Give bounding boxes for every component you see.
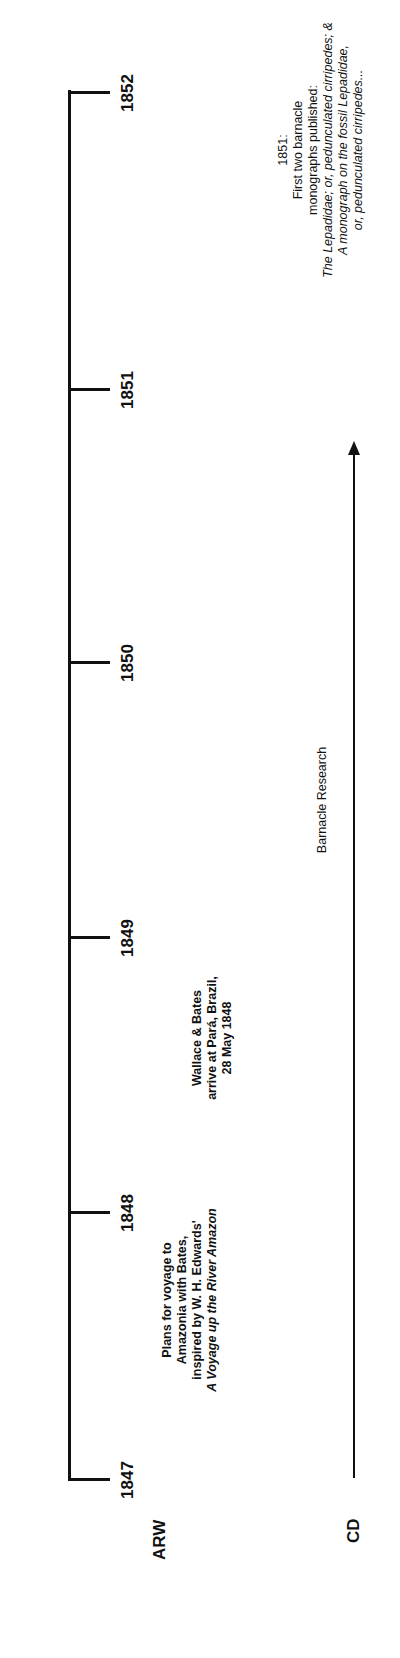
arw-event-arrive-para: Wallace & Bates arrive at Pará, Brazil, … [190, 976, 235, 1100]
tick-1850 [68, 661, 110, 664]
year-label-1851: 1851 [118, 371, 138, 409]
tick-1851 [68, 388, 110, 391]
year-label-1849: 1849 [118, 919, 138, 957]
year-label-1852: 1852 [118, 74, 138, 112]
tick-1852 [68, 91, 110, 94]
row-label-arw: ARW [150, 1520, 170, 1560]
year-label-1848: 1848 [118, 1194, 138, 1232]
timeline-axis [68, 90, 71, 1480]
tick-1849 [68, 936, 110, 939]
row-label-cd: CD [344, 1518, 364, 1543]
arrow-head-icon [348, 441, 360, 455]
tick-1848 [68, 1211, 110, 1214]
arw-event-voyage-plans: Plans for voyage to Amazonia with Bates,… [160, 1208, 220, 1391]
year-label-1850: 1850 [118, 644, 138, 682]
timeline-diagram: 1847 1848 1849 1850 1851 1852 ARW CD Pla… [0, 0, 400, 1658]
tick-1847 [68, 1478, 110, 1481]
cd-event-monographs: 1851: First two barnacle monographs publ… [276, 22, 366, 278]
barnacle-research-span-line [353, 453, 355, 1478]
year-label-1847: 1847 [118, 1461, 138, 1499]
barnacle-research-label: Barnacle Research [315, 747, 329, 853]
